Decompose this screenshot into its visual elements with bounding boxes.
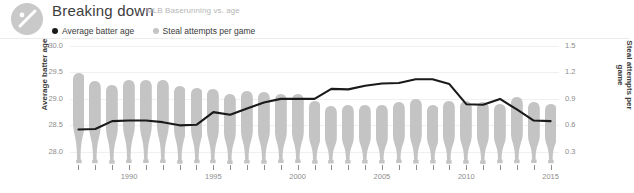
legend-item-average-batter-age[interactable]: Average batter age [52, 26, 134, 36]
x-axis-tick [399, 165, 400, 170]
x-axis-tick-label: 2000 [289, 172, 306, 181]
x-axis-tick [196, 165, 197, 170]
y-axis-right-tick-label: 1.5 [565, 41, 599, 50]
x-axis-tick-label: 2005 [374, 172, 391, 181]
x-axis-tick-label: 2015 [542, 172, 559, 181]
x-axis-tick [298, 165, 299, 170]
x-axis-tick [382, 165, 383, 170]
x-axis-tick [247, 165, 248, 170]
x-axis-tick [213, 165, 214, 170]
y-axis-right-tick-label: 0.3 [565, 147, 599, 156]
x-axis-tick [416, 165, 417, 170]
line-series-average-batter-age [70, 46, 559, 165]
x-axis-tick [230, 165, 231, 170]
x-axis-tick [129, 165, 130, 170]
x-axis: 199019952000200520102015 [70, 165, 559, 193]
page-title: Breaking down [52, 2, 154, 19]
bat-and-ball-circle-icon [11, 3, 43, 35]
x-axis-tick [433, 165, 434, 170]
legend-item-steal-attempts-per-game[interactable]: Steal attempts per game [153, 26, 256, 36]
x-axis-tick [163, 165, 164, 170]
x-axis-tick [331, 165, 332, 170]
x-axis-tick [483, 165, 484, 170]
x-axis-tick-label: 1990 [121, 172, 138, 181]
legend-dot-icon [52, 28, 58, 34]
x-axis-tick [264, 165, 265, 170]
x-axis-tick [95, 165, 96, 170]
legend-dot-icon [153, 28, 159, 34]
legend-label: Steal attempts per game [163, 26, 256, 36]
chart-header: Breaking down MLB Baserunning vs. age Av… [0, 0, 629, 38]
x-axis-tick [348, 165, 349, 170]
x-axis-tick-label: 2010 [458, 172, 475, 181]
legend-label: Average batter age [62, 26, 134, 36]
y-axis-left-tick-label: 28.0 [29, 147, 63, 156]
x-axis-tick [180, 165, 181, 170]
legend: Average batter age Steal attempts per ga… [52, 21, 269, 33]
header-divider [0, 38, 629, 39]
x-axis-tick-label: 1995 [205, 172, 222, 181]
plot-area: 30.029.529.028.528.0 1.51.20.90.60.3 Ave… [70, 46, 559, 165]
x-axis-tick [365, 165, 366, 170]
x-axis-tick [112, 165, 113, 170]
x-axis-tick [449, 165, 450, 170]
y-axis-right-tick-label: 0.9 [565, 94, 599, 103]
x-axis-tick [500, 165, 501, 170]
x-axis-tick [78, 165, 79, 170]
y-axis-left-tick-label: 28.5 [29, 120, 63, 129]
y-axis-left-title: Average batter age [40, 35, 49, 115]
x-axis-tick [281, 165, 282, 170]
y-axis-right-title: Steal attempts per game [616, 32, 634, 118]
x-axis-tick [517, 165, 518, 170]
page-subtitle: MLB Baserunning vs. age [146, 6, 240, 15]
x-axis-tick [146, 165, 147, 170]
x-axis-tick [551, 165, 552, 170]
x-axis-tick [534, 165, 535, 170]
x-axis-tick [466, 165, 467, 170]
y-axis-right-tick-label: 0.6 [565, 120, 599, 129]
y-axis-right-tick-label: 1.2 [565, 67, 599, 76]
x-axis-tick [315, 165, 316, 170]
